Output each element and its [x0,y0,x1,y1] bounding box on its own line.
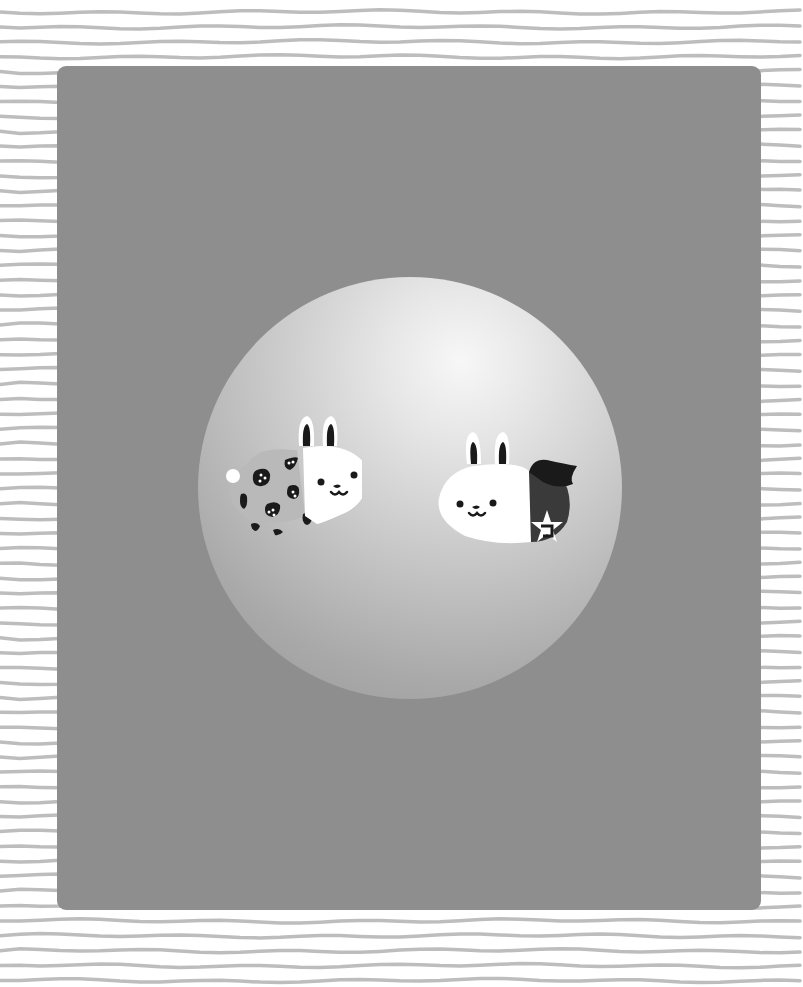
paper-line [0,934,800,938]
paper-line [0,949,800,953]
gray-panel [57,66,761,910]
caped-star-bunny [435,414,580,549]
paper-line [0,919,800,923]
paper-line [0,25,800,29]
strawberry-bunny [217,406,362,536]
pompom-icon [226,469,240,483]
bunny-face [303,446,362,524]
paper-line [0,10,800,14]
paper-line [0,55,800,59]
paper-line [0,964,800,968]
bunny-face [439,464,531,543]
paper-line [0,40,800,44]
paper-line [0,978,800,982]
